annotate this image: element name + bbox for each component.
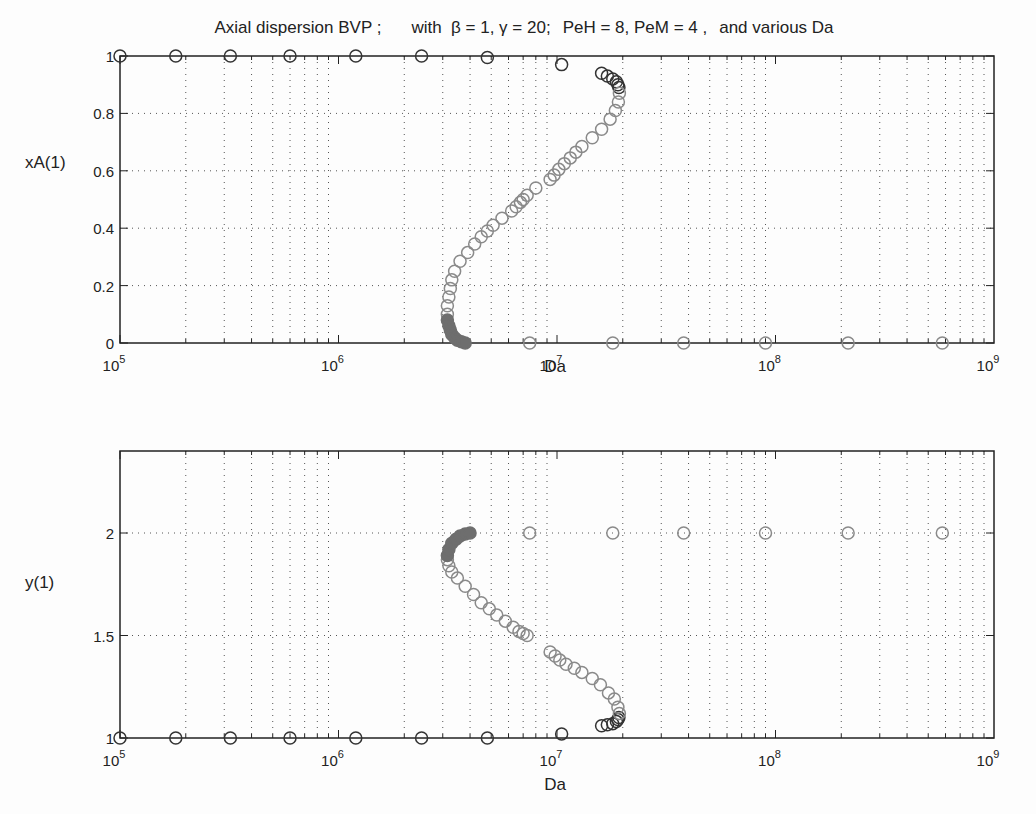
data-point-marker — [491, 609, 503, 621]
data-point-marker — [586, 132, 598, 144]
y-axis-label: y(1) — [25, 573, 54, 592]
y-tick-label: 0.8 — [93, 105, 114, 122]
data-point-marker — [596, 123, 608, 135]
data-point-marker — [444, 282, 456, 294]
y-tick-label: 0.6 — [93, 163, 114, 180]
figure-canvas: 00.20.40.60.81105106107108109DaxA(1) 11.… — [0, 0, 1036, 814]
axes-frame — [120, 451, 994, 738]
data-point-marker — [604, 113, 616, 125]
data-point-marker — [499, 615, 511, 627]
data-point-marker — [594, 679, 606, 691]
data-point-marker — [483, 603, 495, 615]
x-tick-label: 109 — [977, 748, 1000, 769]
data-point-marker — [446, 274, 458, 286]
data-point-marker — [678, 527, 690, 539]
y-tick-label: 2 — [106, 525, 114, 542]
axes-xa1: 00.20.40.60.81105106107108109DaxA(1) — [25, 48, 999, 376]
x-tick-label: 106 — [321, 353, 344, 374]
data-point-marker — [556, 59, 568, 71]
y-tick-label: 1.5 — [93, 628, 114, 645]
x-tick-label: 108 — [758, 748, 781, 769]
y-tick-label: 1 — [106, 48, 114, 65]
x-tick-label: 105 — [103, 748, 126, 769]
data-point-marker — [760, 527, 772, 539]
y-tick-label: 0 — [106, 335, 114, 352]
y-tick-label: 0.2 — [93, 278, 114, 295]
x-axis-label: Da — [544, 357, 566, 376]
y-tick-label: 0.4 — [93, 220, 114, 237]
y-axis-label: xA(1) — [25, 153, 66, 172]
data-point-marker — [464, 527, 476, 539]
axes-y1: 11.52105106107108109Day(1) — [25, 451, 999, 794]
data-point-marker — [469, 238, 481, 250]
axes-frame — [120, 56, 994, 343]
x-tick-label: 108 — [758, 353, 781, 374]
x-tick-label: 105 — [103, 353, 126, 374]
x-axis-label: Da — [544, 775, 566, 794]
data-point-marker — [524, 527, 536, 539]
x-tick-label: 109 — [977, 353, 1000, 374]
data-point-marker — [459, 337, 471, 349]
x-tick-label: 107 — [540, 748, 563, 769]
data-point-marker — [443, 291, 455, 303]
data-point-marker — [449, 265, 461, 277]
x-tick-label: 106 — [321, 748, 344, 769]
y-tick-label: 1 — [106, 730, 114, 747]
